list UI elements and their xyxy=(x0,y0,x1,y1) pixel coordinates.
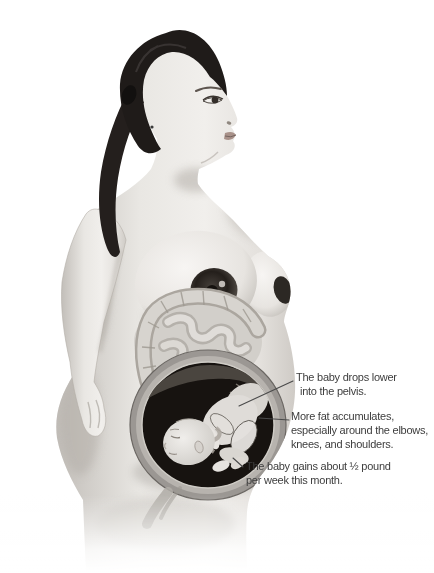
medical-illustration: The baby drops lower into the pelvis. Mo… xyxy=(0,0,434,573)
annotation-line: knees, and shoulders. xyxy=(291,437,428,451)
pregnant-woman-illustration xyxy=(0,0,434,573)
earring xyxy=(150,125,153,128)
bottom-fade xyxy=(0,495,434,573)
annotation-line: The baby drops lower xyxy=(296,370,397,384)
annotation-weight-gain: The baby gains about ½ pound per week th… xyxy=(246,459,391,487)
annotation-line: per week this month. xyxy=(246,473,391,487)
iris xyxy=(212,97,219,104)
annotation-line: into the pelvis. xyxy=(300,384,397,398)
annotation-line: More fat accumulates, xyxy=(291,409,428,423)
annotation-baby-drops: The baby drops lower into the pelvis. xyxy=(296,370,397,398)
annotation-line: The baby gains about ½ pound xyxy=(246,459,391,473)
annotation-line: especially around the elbows, xyxy=(291,423,428,437)
annotation-fat-accumulates: More fat accumulates, especially around … xyxy=(291,409,428,451)
